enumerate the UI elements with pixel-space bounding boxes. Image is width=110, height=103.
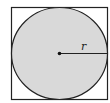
center-point [58, 52, 62, 56]
inscribed-circle-diagram: r [0, 0, 110, 103]
radius-label: r [81, 40, 87, 53]
